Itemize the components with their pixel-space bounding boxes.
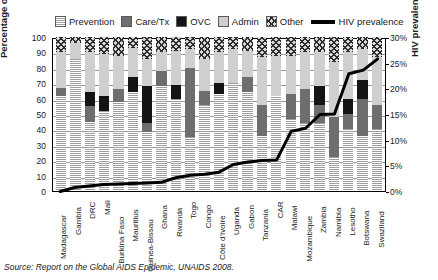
x-axis-label-cell: Mali: [96, 193, 110, 255]
legend-item: Other: [266, 16, 304, 27]
x-axis-label-cell: Lesotho: [342, 193, 356, 255]
chart-legend: PreventionCare/TxOVCAdminOtherHIV preval…: [55, 14, 395, 29]
legend-item: OVC: [176, 16, 211, 27]
x-axis-label-cell: Côte d'Ivoire: [212, 193, 226, 255]
x-axis-label-cell: Mauritius: [125, 193, 139, 255]
other-swatch: [266, 16, 277, 27]
plot-area: [52, 38, 386, 192]
x-axis-label-cell: Rwanda: [169, 193, 183, 255]
hiv-prevalence-path: [60, 59, 378, 192]
x-axis-label-cell: Madagascar: [53, 193, 67, 255]
x-axis-label-cell: Guinea-Bissau: [140, 193, 154, 255]
x-axis-label-cell: Burkina Faso: [111, 193, 125, 255]
legend-item-label: Prevention: [69, 16, 114, 27]
x-axis-label-cell: Namibia: [327, 193, 341, 255]
x-axis-label-cell: Ghana: [154, 193, 168, 255]
y-axis-right-tickmark: [386, 141, 389, 142]
legend-item: Prevention: [55, 16, 114, 27]
y-axis-left-tick: 30: [6, 142, 46, 151]
x-axis-label-cell: Tanzania: [255, 193, 269, 255]
x-axis-label: Swaziland: [378, 211, 386, 247]
ovc-swatch: [176, 16, 187, 27]
y-axis-right-tickmark: [386, 64, 389, 65]
prevention-swatch: [55, 16, 66, 27]
y-axis-right-tick: 0%: [390, 188, 430, 197]
x-axis-label-cell: Uganda: [226, 193, 240, 255]
y-axis-left-tick: 70: [6, 80, 46, 89]
y-axis-left-tick: 80: [6, 65, 46, 74]
y-axis-right-tick: 10%: [390, 137, 430, 146]
x-axis-label-cell: Mozambique: [298, 193, 312, 255]
legend-item-label: OVC: [190, 16, 211, 27]
x-axis-label-cell: Swaziland: [371, 193, 385, 255]
legend-item-label: Care/Tx: [135, 16, 169, 27]
x-axis-label-cell: Togo: [183, 193, 197, 255]
care-tx-swatch: [121, 16, 132, 27]
x-axis-labels: MadagascarGambiaDRCMaliBurkina FasoMauri…: [52, 193, 386, 255]
line-swatch: [311, 20, 335, 24]
legend-item-label: Admin: [232, 16, 259, 27]
x-axis-label-cell: CAR: [270, 193, 284, 255]
x-axis-label-cell: Malawi: [284, 193, 298, 255]
y-axis-right-tickmark: [386, 38, 389, 39]
y-axis-right-tick: 5%: [390, 162, 430, 171]
y-axis-left-tick: 10: [6, 173, 46, 182]
y-axis-left-tick: 50: [6, 111, 46, 120]
y-axis-right-tickmark: [386, 192, 389, 193]
y-axis-right-tick: 15%: [390, 111, 430, 120]
y-axis-left-tick: 40: [6, 126, 46, 135]
hiv-prevalence-line: [53, 39, 385, 192]
legend-item: HIV prevalence: [311, 16, 404, 27]
y-axis-right-tickmark: [386, 115, 389, 116]
y-axis-right-tickmark: [386, 166, 389, 167]
legend-item: Admin: [218, 16, 259, 27]
y-axis-left-tick: 0: [6, 188, 46, 197]
y-axis-right-tick: 25%: [390, 60, 430, 69]
x-axis-label-cell: Gambia: [67, 193, 81, 255]
chart-figure: PreventionCare/TxOVCAdminOtherHIV preval…: [0, 0, 438, 280]
y-axis-left-tick: 100: [6, 34, 46, 43]
y-axis-right-tick: 30%: [390, 34, 430, 43]
y-axis-left-tick: 20: [6, 157, 46, 166]
legend-item-label: Other: [280, 16, 304, 27]
x-axis-label-cell: Congo: [197, 193, 211, 255]
y-axis-left-tick: 90: [6, 49, 46, 58]
admin-swatch: [218, 16, 229, 27]
x-axis-label-cell: DRC: [82, 193, 96, 255]
legend-item: Care/Tx: [121, 16, 169, 27]
y-axis-left-tick: 60: [6, 96, 46, 105]
x-axis-label-cell: Gabon: [241, 193, 255, 255]
y-axis-right-tickmark: [386, 89, 389, 90]
x-axis-label-cell: Botswana: [356, 193, 370, 255]
x-axis-label-cell: Zambia: [313, 193, 327, 255]
y-axis-right-tick: 20%: [390, 85, 430, 94]
source-note: Source: Report on the Global AIDS Epidem…: [4, 262, 234, 272]
legend-item-label: HIV prevalence: [339, 16, 404, 27]
